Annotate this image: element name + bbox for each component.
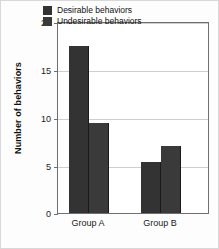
y-tick-label-5: 5 <box>46 163 51 172</box>
legend-item-desirable: Desirable behaviors <box>43 6 142 15</box>
legend-swatch-undesirable <box>43 17 52 26</box>
bar-group-b-desirable <box>141 162 161 213</box>
y-tick-label-10: 10 <box>41 115 51 124</box>
y-tick-10 <box>54 119 58 120</box>
bar-group-a-desirable <box>69 46 89 213</box>
y-tick-5 <box>54 167 58 168</box>
x-tick-label-group-a: Group A <box>71 218 104 228</box>
x-tick-label-group-b: Group B <box>143 218 177 228</box>
y-tick-0 <box>54 214 58 215</box>
y-axis-title-text: Number of behaviors <box>13 62 23 154</box>
legend-label-undesirable: Undesirable behaviors <box>57 17 142 26</box>
y-axis-title: Number of behaviors <box>10 1 26 214</box>
legend-swatch-desirable <box>43 6 52 15</box>
legend-item-undesirable: Undesirable behaviors <box>43 17 142 26</box>
chart-figure: Number of behaviors 20 15 10 5 0 Group A… <box>0 0 219 249</box>
bar-group-b-undesirable <box>161 146 181 213</box>
chart-legend: Desirable behaviors Undesirable behavior… <box>43 6 142 26</box>
y-tick-label-0: 0 <box>46 210 51 219</box>
y-tick-label-15: 15 <box>41 67 51 76</box>
legend-label-desirable: Desirable behaviors <box>57 6 132 15</box>
y-tick-15 <box>54 71 58 72</box>
plot-area: 20 15 10 5 0 <box>57 22 209 214</box>
bar-group-a-undesirable <box>89 123 109 213</box>
